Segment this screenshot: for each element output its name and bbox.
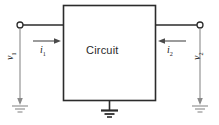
current-arrow-right-icon	[158, 38, 186, 44]
current-arrow-left-icon	[33, 38, 61, 44]
current-left-subscript: 1	[43, 50, 46, 57]
voltage-right-subscript: 2	[197, 52, 204, 55]
left-ground-icon	[12, 106, 28, 112]
voltage-left-symbol: v	[4, 56, 15, 60]
current-left-label: i1	[40, 45, 46, 57]
voltage-right-label: v2	[192, 52, 204, 60]
voltage-left-subscript: 1	[10, 52, 17, 55]
right-ground-icon	[192, 106, 208, 112]
voltage-right-symbol: v	[191, 56, 202, 60]
left-terminal-node	[17, 22, 23, 28]
two-port-circuit-figure: Circuit i1 i2 v1 v2	[0, 0, 219, 125]
voltage-arrow-right-head	[197, 98, 203, 105]
voltage-arrow-left-head	[17, 98, 23, 105]
center-ground-icon	[101, 111, 118, 118]
current-right-label: i2	[167, 45, 173, 57]
right-terminal-node	[197, 22, 203, 28]
circuit-schematic	[0, 0, 219, 125]
voltage-left-label: v1	[5, 52, 17, 60]
circuit-box-label: Circuit	[86, 45, 119, 56]
current-right-subscript: 2	[170, 50, 173, 57]
